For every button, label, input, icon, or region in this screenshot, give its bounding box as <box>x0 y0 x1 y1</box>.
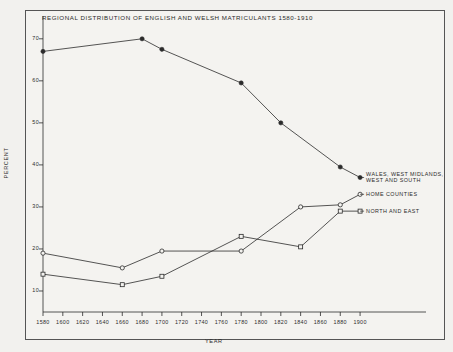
x-tick-label: 1780 <box>230 319 252 325</box>
x-tick-label: 1800 <box>250 319 272 325</box>
y-tick-label: 20 <box>25 245 39 251</box>
x-tick-label: 1700 <box>151 319 173 325</box>
chart-figure: REGIONAL DISTRIBUTION OF ENGLISH AND WEL… <box>0 0 453 352</box>
x-tick-label: 1720 <box>171 319 193 325</box>
y-tick-label: 70 <box>25 35 39 41</box>
x-tick-label: 1680 <box>131 319 153 325</box>
x-tick-label: 1580 <box>32 319 54 325</box>
plot-area <box>0 0 453 352</box>
x-tick-label: 1600 <box>52 319 74 325</box>
x-tick-label: 1740 <box>191 319 213 325</box>
x-tick-label: 1900 <box>349 319 371 325</box>
y-tick-label: 50 <box>25 119 39 125</box>
x-tick-label: 1880 <box>329 319 351 325</box>
y-tick-label: 40 <box>25 161 39 167</box>
x-tick-label: 1860 <box>309 319 331 325</box>
y-tick-label: 10 <box>25 287 39 293</box>
x-tick-label: 1620 <box>72 319 94 325</box>
x-tick-label: 1660 <box>111 319 133 325</box>
x-tick-label: 1840 <box>290 319 312 325</box>
x-tick-label: 1640 <box>91 319 113 325</box>
y-tick-label: 30 <box>25 203 39 209</box>
x-tick-label: 1820 <box>270 319 292 325</box>
x-tick-label: 1760 <box>210 319 232 325</box>
y-tick-label: 60 <box>25 77 39 83</box>
